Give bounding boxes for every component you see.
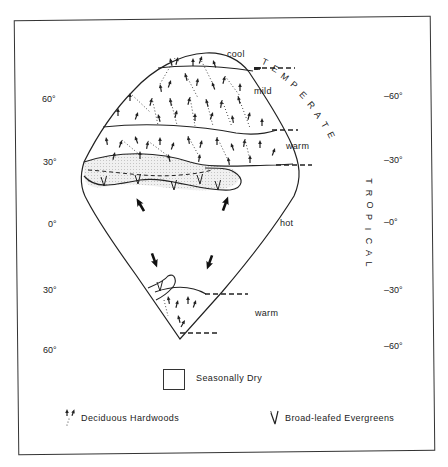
lat-right-60n: –60° — [384, 91, 403, 101]
broad-leafed-evergreen-icon — [269, 410, 281, 426]
label-warm-north: warm — [286, 141, 309, 151]
lat-left-0: 0° — [48, 219, 57, 229]
lat-left-60n: 60° — [42, 94, 56, 104]
continent-diagram — [0, 0, 448, 467]
wind-arrow-nw — [133, 196, 147, 212]
lat-right-30n: –30° — [384, 155, 403, 165]
legend-seasonally-dry-swatch — [163, 369, 185, 390]
lat-left-30n: 30° — [43, 157, 57, 167]
wind-arrow-ne — [220, 195, 232, 211]
lat-right-30n-value: 30° — [389, 155, 403, 165]
broad-leafed-evergreen-glyphs — [101, 174, 221, 291]
lat-left-60s: 60° — [43, 345, 57, 355]
lat-right-30s-value: 30° — [389, 285, 403, 295]
deciduous-hardwood-glyphs — [104, 55, 276, 327]
label-cool: cool — [227, 49, 245, 59]
legend-deciduous-label: Deciduous Hardwoods — [81, 413, 179, 423]
legend-evergreen-label: Broad-leafed Evergreens — [285, 413, 394, 423]
mild-warm-boundary — [103, 125, 277, 134]
lat-left-30s: 30° — [43, 285, 57, 295]
lat-right-30s: –30° — [384, 285, 403, 295]
legend-seasonally-dry-label: Seasonally Dry — [196, 373, 262, 383]
wind-arrow-sw — [149, 252, 161, 268]
lat-right-60n-value: 60° — [389, 91, 403, 101]
deciduous-hardwood-icon — [64, 408, 78, 426]
lat-right-0-value: 0° — [389, 217, 398, 227]
lat-right-0: –0° — [384, 217, 398, 227]
label-mild: mild — [254, 86, 272, 96]
wind-arrow-se — [204, 254, 216, 270]
lat-right-60s-value: 60° — [389, 341, 403, 351]
label-warm-south: warm — [255, 308, 278, 318]
cool-mild-boundary — [158, 66, 253, 71]
lat-right-60s: –60° — [384, 341, 403, 351]
label-hot: hot — [280, 218, 293, 228]
south-warm-boundary — [155, 287, 206, 294]
